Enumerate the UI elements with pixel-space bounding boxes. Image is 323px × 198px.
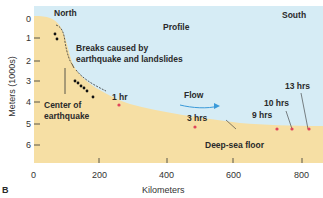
x-tick-800: 800 xyxy=(294,171,309,180)
breaks-label-line1: Breaks caused by xyxy=(76,44,148,53)
flow-label: Flow xyxy=(184,91,203,100)
deep-sea-floor-label: Deep-sea floor xyxy=(205,141,264,150)
y-tick-4: 4 xyxy=(26,98,31,107)
center-label-line1: Center of xyxy=(44,101,81,110)
y-tick-6: 6 xyxy=(26,141,31,150)
time-label-9hrs: 9 hrs xyxy=(252,111,272,120)
x-tick-0: 0 xyxy=(31,171,36,180)
panel-letter: B xyxy=(2,186,9,195)
breaks-label-line2: earthquake and landslides xyxy=(76,55,183,64)
y-tick-5: 5 xyxy=(26,120,31,129)
time-label-3hrs: 3 hrs xyxy=(187,114,207,123)
y-tick-2: 2 xyxy=(26,57,31,66)
south-label: South xyxy=(282,11,306,20)
marker-1hr xyxy=(117,103,120,106)
x-axis-label: Kilometers xyxy=(142,186,185,195)
marker-3hrs xyxy=(193,125,196,128)
y-axis-label: Meters (1000s) xyxy=(8,51,17,123)
time-label-10hrs: 10 hrs xyxy=(264,99,289,108)
y-tick-0: 0 xyxy=(26,15,31,24)
x-tick-200: 200 xyxy=(92,171,107,180)
x-tick-400: 400 xyxy=(159,171,174,180)
north-label: North xyxy=(54,9,77,18)
tsunami-profile-diagram: North Profile South Breaks caused by ear… xyxy=(0,0,323,198)
y-tick-3: 3 xyxy=(26,77,31,86)
x-tick-600: 600 xyxy=(226,171,241,180)
center-label-line2: earthquake xyxy=(44,112,89,121)
marker-13hrs xyxy=(307,127,310,130)
y-tick-1: 1 xyxy=(26,34,31,43)
marker-10hrs xyxy=(290,127,293,130)
time-label-1hr: 1 hr xyxy=(112,93,128,102)
time-label-13hrs: 13 hrs xyxy=(285,82,310,91)
profile-title: Profile xyxy=(163,23,189,32)
marker-9hrs xyxy=(275,127,278,130)
